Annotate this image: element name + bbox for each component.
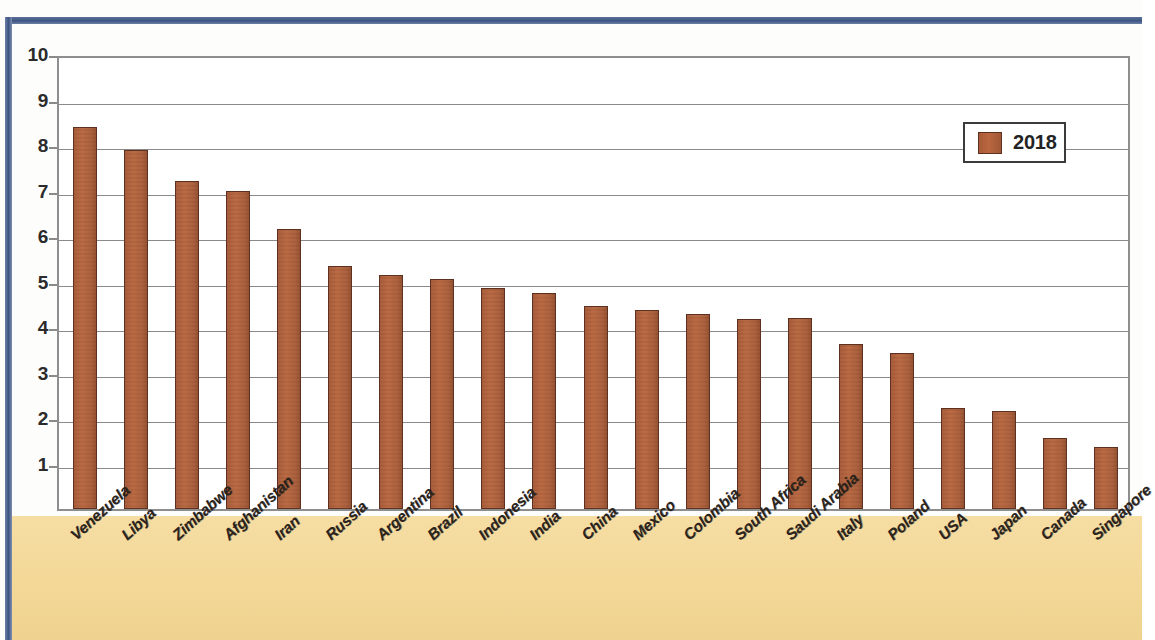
bar: [481, 288, 505, 509]
x-axis-category-label: USA: [935, 509, 971, 544]
y-axis-tick-label: 8: [8, 135, 48, 157]
bar: [379, 275, 403, 509]
gridline: [59, 286, 1128, 287]
gridline: [59, 104, 1128, 105]
legend: 2018: [963, 122, 1066, 163]
bar: [226, 191, 250, 510]
bar: [584, 306, 608, 509]
bar: [430, 279, 454, 509]
y-axis-tick-label: 10: [8, 44, 48, 66]
y-axis-tick-label: 9: [8, 90, 48, 112]
bar: [635, 310, 659, 509]
bar: [992, 411, 1016, 509]
y-axis-tick-label: 2: [8, 408, 48, 430]
bar: [532, 293, 556, 509]
bar: [73, 127, 97, 509]
x-axis-category-label: India: [526, 507, 564, 544]
bar: [124, 150, 148, 509]
bar: [737, 319, 761, 509]
y-axis-tick-label: 7: [8, 181, 48, 203]
y-axis-tick-label: 6: [8, 226, 48, 248]
bar: [328, 266, 352, 509]
y-axis-tick-label: 3: [8, 363, 48, 385]
y-axis-tick-label: 5: [8, 272, 48, 294]
bar: [941, 408, 965, 509]
legend-label: 2018: [1013, 131, 1057, 154]
y-axis-tick-label: 4: [8, 317, 48, 339]
bar: [1043, 438, 1067, 509]
y-axis-tick-label: 1: [8, 454, 48, 476]
gridline: [59, 240, 1128, 241]
bar: [890, 353, 914, 509]
x-axis-category-label: Iran: [271, 512, 304, 544]
bar: [277, 229, 301, 509]
legend-swatch-2018: [978, 132, 1002, 154]
category-label-band: VenezuelaLibyaZimbabweAfghanistanIranRus…: [12, 516, 1142, 640]
bar: [1094, 447, 1118, 509]
x-axis-category-label: Italy: [833, 511, 867, 544]
gridline: [59, 195, 1128, 196]
bar: [175, 181, 199, 509]
bar: [686, 314, 710, 509]
